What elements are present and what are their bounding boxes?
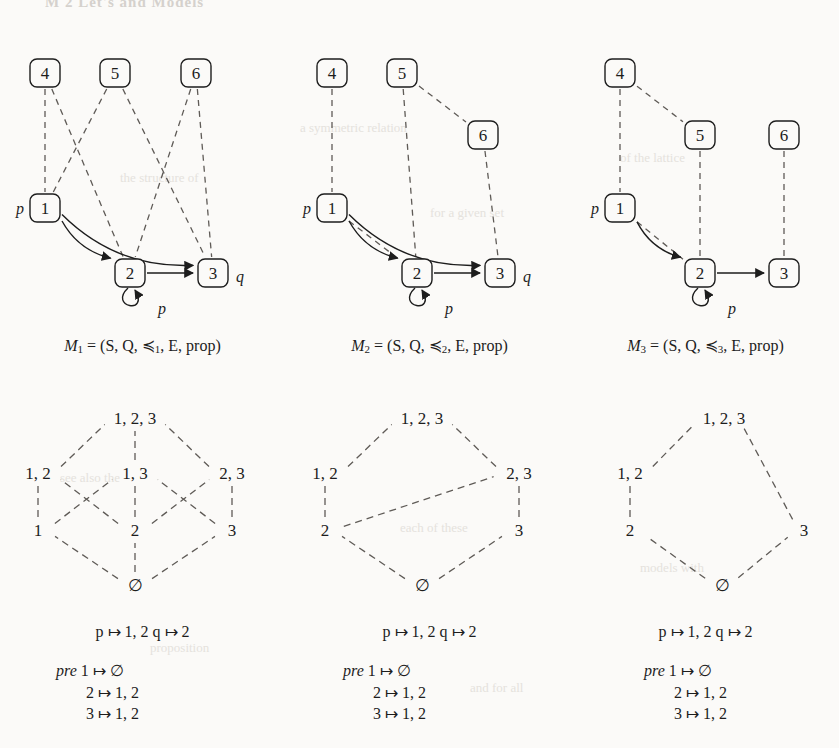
transition-selfloop <box>692 288 708 306</box>
order-edge-dashed <box>52 89 123 257</box>
state-node-label: 5 <box>696 126 705 145</box>
state-node-label: 6 <box>479 126 488 145</box>
model-maps-2: p ↦ 1, 2 q ↦ 2 pre 1 ↦ ∅2 ↦ 1, 23 ↦ 1, 2 <box>287 622 572 725</box>
lattice-edge <box>344 477 494 527</box>
lattice-edge <box>452 424 496 466</box>
state-node-label: 3 <box>209 264 218 283</box>
state-node-5[interactable]: 5 <box>387 59 417 87</box>
proposition-label: p <box>302 200 311 218</box>
lattice-node-bot[interactable]: ∅ <box>415 576 430 595</box>
pre-map-entry: 3 ↦ 1, 2 <box>373 703 426 725</box>
state-node-label: 4 <box>328 64 337 83</box>
transition-selfloop <box>122 288 138 306</box>
lattice-edge <box>152 480 209 524</box>
order-edge-dashed <box>485 151 498 257</box>
lattice-node-top[interactable]: 1, 2, 3 <box>401 409 444 428</box>
state-node-label: 1 <box>41 199 50 218</box>
state-node-label: 6 <box>192 64 201 83</box>
state-node-1[interactable]: 1 <box>30 194 60 222</box>
model-graph-1: 456123pqp <box>0 18 285 323</box>
pre-map-entry: 3 ↦ 1, 2 <box>674 703 727 725</box>
pre-map-entry: 1 ↦ ∅ <box>77 662 124 679</box>
order-edge-dashed <box>637 222 683 259</box>
state-node-1[interactable]: 1 <box>317 194 347 222</box>
caption-tuple-tail: , E, prop) <box>447 337 507 354</box>
state-node-5[interactable]: 5 <box>100 59 130 87</box>
order-edge-dashed <box>135 89 190 257</box>
caption-model-index: 1 <box>78 343 84 355</box>
lattice-node-top[interactable]: 1, 2, 3 <box>703 409 746 428</box>
lattice-edge <box>439 536 502 578</box>
state-node-label: 1 <box>616 199 625 218</box>
state-node-label: 5 <box>111 64 120 83</box>
figure-page: M 2 Let's and Models a symmetric relatio… <box>0 0 839 748</box>
order-edge-dashed <box>419 86 466 122</box>
pre-map-entry: 3 ↦ 1, 2 <box>86 703 139 725</box>
pre-map-first-line: pre 1 ↦ ∅ <box>56 660 139 682</box>
lattice-node-12[interactable]: 1, 2 <box>617 464 643 483</box>
state-node-4[interactable]: 4 <box>30 59 60 87</box>
model-graph-3: 456123pp <box>572 18 839 323</box>
lattice-node-2[interactable]: 2 <box>131 521 140 540</box>
proposition-label: p <box>590 200 599 218</box>
pre-map-entry: 2 ↦ 1, 2 <box>86 682 139 704</box>
model-lattice-2: 1, 2, 31, 22, 323∅ <box>287 395 572 610</box>
lattice-node-3[interactable]: 3 <box>515 521 524 540</box>
prop-map-line: p ↦ 1, 2 q ↦ 2 <box>287 622 572 641</box>
model-maps-3: p ↦ 1, 2 q ↦ 2 pre 1 ↦ ∅2 ↦ 1, 23 ↦ 1, 2 <box>572 622 839 725</box>
lattice-node-1[interactable]: 1 <box>34 521 43 540</box>
lattice-node-bot[interactable]: ∅ <box>715 576 730 595</box>
state-node-label: 3 <box>780 264 789 283</box>
state-node-4[interactable]: 4 <box>605 59 635 87</box>
state-node-6[interactable]: 6 <box>468 121 498 149</box>
lattice-node-bot[interactable]: ∅ <box>128 576 143 595</box>
caption-equals: = <box>374 337 383 354</box>
state-node-2[interactable]: 2 <box>115 259 145 287</box>
state-node-3[interactable]: 3 <box>769 259 799 287</box>
state-node-2[interactable]: 2 <box>685 259 715 287</box>
prop-map-line: p ↦ 1, 2 q ↦ 2 <box>0 622 285 641</box>
lattice-edge <box>158 480 215 524</box>
caption-equals: = <box>87 337 96 354</box>
state-node-5[interactable]: 5 <box>685 121 715 149</box>
lattice-node-2[interactable]: 2 <box>321 521 330 540</box>
lattice-edge <box>165 424 209 466</box>
state-node-1[interactable]: 1 <box>605 194 635 222</box>
transition-edge-curved <box>62 221 111 258</box>
pre-map-entry: 1 ↦ ∅ <box>364 662 411 679</box>
state-node-label: 6 <box>780 126 789 145</box>
caption-tuple-tail: , E, prop) <box>723 337 783 354</box>
state-node-3[interactable]: 3 <box>485 259 515 287</box>
lattice-node-3[interactable]: 3 <box>800 521 809 540</box>
lattice-node-23[interactable]: 2, 3 <box>506 464 532 483</box>
state-node-label: 5 <box>398 64 407 83</box>
lattice-node-2[interactable]: 2 <box>626 521 635 540</box>
transition-edge-curved <box>349 215 480 266</box>
pre-map-block: pre 1 ↦ ∅2 ↦ 1, 23 ↦ 1, 2 <box>287 660 572 725</box>
state-node-6[interactable]: 6 <box>769 121 799 149</box>
model-graph-2: 456123pqp <box>287 18 572 323</box>
order-edge-dashed <box>403 89 416 257</box>
page-header-sliver: M 2 Let's and Models <box>45 0 204 11</box>
pre-map-first-line: pre 1 ↦ ∅ <box>644 660 727 682</box>
lattice-node-13[interactable]: 1, 3 <box>122 464 148 483</box>
model-caption-3: M3 = (S, Q, ≼3, E, prop) <box>572 336 839 355</box>
caption-model-name: M <box>64 337 77 354</box>
state-node-2[interactable]: 2 <box>402 259 432 287</box>
state-node-label: 1 <box>328 199 337 218</box>
order-edge-dashed <box>349 221 400 260</box>
state-node-6[interactable]: 6 <box>181 59 211 87</box>
lattice-edge <box>55 536 118 578</box>
lattice-node-12[interactable]: 1, 2 <box>25 464 51 483</box>
lattice-node-top[interactable]: 1, 2, 3 <box>114 409 157 428</box>
lattice-node-12[interactable]: 1, 2 <box>312 464 338 483</box>
state-node-label: 2 <box>413 264 422 283</box>
lattice-node-3[interactable]: 3 <box>228 521 237 540</box>
model-lattice-3: 1, 2, 31, 223∅ <box>572 395 839 610</box>
pre-map-entry: 1 ↦ ∅ <box>665 662 712 679</box>
lattice-node-23[interactable]: 2, 3 <box>219 464 245 483</box>
proposition-label: p <box>15 200 24 218</box>
state-node-4[interactable]: 4 <box>317 59 347 87</box>
lattice-edge <box>744 429 792 520</box>
state-node-3[interactable]: 3 <box>198 259 228 287</box>
